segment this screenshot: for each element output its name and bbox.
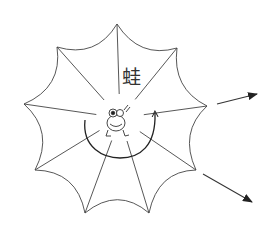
web-drawing (0, 0, 278, 228)
frog-character-label: 蛙 (122, 68, 141, 87)
spider-web-diagram: 蛙 (0, 0, 278, 228)
frog-icon (106, 105, 130, 136)
force-arrows (203, 94, 257, 202)
